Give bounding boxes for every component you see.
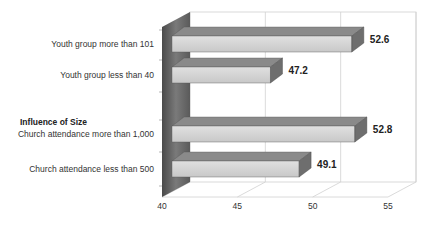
bar-top: [172, 27, 364, 36]
x-tick-label: 40: [157, 201, 167, 211]
bar-front: [172, 161, 299, 177]
value-label: 49.1: [317, 159, 337, 170]
category-label: Church attendance more than 1,000: [18, 129, 154, 139]
category-label: Youth group less than 40: [60, 70, 154, 80]
bar: 52.6: [172, 27, 390, 52]
value-label: 52.8: [373, 124, 393, 135]
category-labels: Youth group more than 101Youth group les…: [18, 39, 154, 174]
x-tick-label: 55: [383, 201, 393, 211]
bar-front: [172, 126, 355, 142]
bar-chart: 52.647.252.849.1 Youth group more than 1…: [0, 0, 430, 225]
gridline-floor: [237, 182, 265, 197]
value-label: 52.6: [370, 34, 390, 45]
gridline-floor: [313, 182, 341, 197]
x-tick-label: 50: [308, 201, 318, 211]
bar-front: [172, 36, 352, 52]
bar-top: [172, 117, 367, 126]
category-label: Church attendance less than 500: [29, 164, 154, 174]
gridline-floor: [388, 182, 416, 197]
x-axis-ticks: 40455055: [157, 201, 393, 211]
bar-front: [172, 67, 270, 83]
bar-top: [172, 152, 311, 161]
value-label: 47.2: [288, 65, 308, 76]
x-tick-label: 45: [233, 201, 243, 211]
group-label: Influence of Size: [20, 117, 87, 127]
category-label: Youth group more than 101: [51, 39, 154, 49]
bar: 52.8: [172, 117, 393, 142]
bar-top: [172, 58, 282, 67]
